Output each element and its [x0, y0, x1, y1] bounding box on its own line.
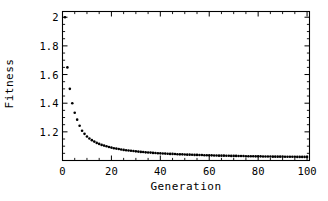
y-tick-label: 1.8 [5, 40, 59, 52]
x-tick-label: 100 [298, 165, 317, 177]
x-tick-label: 40 [154, 165, 167, 177]
axis-ticks [63, 12, 310, 161]
x-tick-label: 80 [252, 165, 265, 177]
fitness-vs-generation-chart: Fitness Generation 0204060801001.21.41.6… [0, 0, 328, 201]
x-tick-label: 20 [105, 165, 118, 177]
y-tick-label: 2 [5, 11, 59, 23]
data-points [64, 16, 309, 158]
y-tick-label: 1.2 [5, 126, 59, 138]
x-axis-label: Generation [62, 180, 310, 193]
plot-frame [63, 12, 310, 161]
x-tick-label: 60 [203, 165, 216, 177]
x-tick-label: 0 [59, 165, 65, 177]
y-tick-label: 1.6 [5, 69, 59, 81]
y-tick-label: 1.4 [5, 97, 59, 109]
